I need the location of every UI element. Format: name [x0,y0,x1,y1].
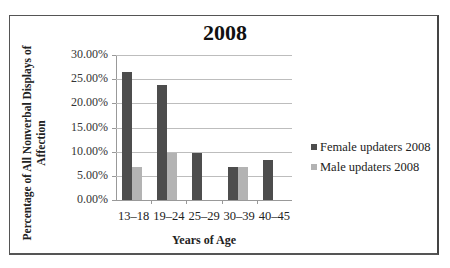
y-tick [112,200,116,201]
y-axis-label: Percentage of All Nonverbal Displays of … [20,43,56,243]
y-tick-label: 5.00% [58,168,108,183]
x-tick-label: 25–29 [186,209,222,224]
bar-female [192,153,202,200]
x-tick [257,200,258,204]
y-tick [112,103,116,104]
bar-female [122,72,132,200]
bar-male [132,167,142,200]
y-tick-label: 15.00% [58,120,108,135]
x-tick-label: 30–39 [221,209,257,224]
x-tick-label: 19–24 [151,209,187,224]
y-tick [112,152,116,153]
legend-swatch-female [311,144,317,150]
x-tick [186,200,187,204]
gridline [116,103,292,104]
y-tick-label: 10.00% [58,144,108,159]
y-tick [112,176,116,177]
y-axis-label-line1: Percentage of All Nonverbal Displays of [20,43,34,243]
legend-item-female: Female updaters 2008 [311,137,430,157]
y-tick-label: 25.00% [58,71,108,86]
chart-title: 2008 [25,20,425,46]
x-axis-label: Years of Age [116,233,292,248]
x-tick [151,200,152,204]
legend-item-male: Male updaters 2008 [311,157,430,177]
x-tick-label: 13–18 [116,209,152,224]
legend-label-female: Female updaters 2008 [320,140,430,154]
y-tick-label: 0.00% [58,192,108,207]
bar-female [263,160,273,200]
bar-female [157,85,167,200]
y-tick-label: 20.00% [58,95,108,110]
legend: Female updaters 2008 Male updaters 2008 [311,137,430,177]
y-tick [112,128,116,129]
y-axis-label-line2: Affection [34,43,48,243]
bar-female [228,167,238,200]
x-tick [222,200,223,204]
x-tick-label: 40–45 [256,209,292,224]
gridline [116,55,292,56]
plot-area [116,55,292,200]
gridline [116,152,292,153]
y-tick [112,55,116,56]
bar-male [167,153,177,200]
y-tick [112,79,116,80]
legend-swatch-male [311,164,317,170]
y-tick-label: 30.00% [58,47,108,62]
legend-label-male: Male updaters 2008 [320,160,419,174]
gridline [116,79,292,80]
bar-male [238,167,248,200]
gridline [116,128,292,129]
x-axis [116,200,292,201]
